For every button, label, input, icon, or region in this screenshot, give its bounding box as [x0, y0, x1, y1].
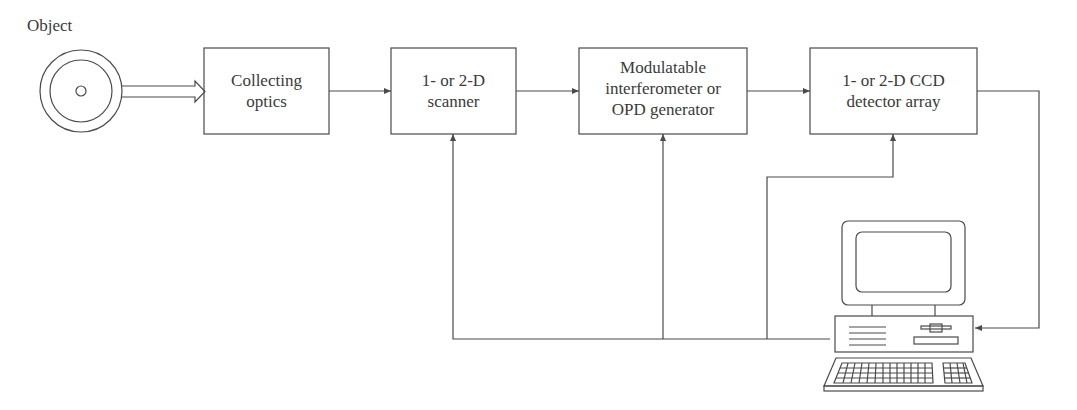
- block-text-line: OPD generator: [579, 99, 747, 120]
- block-text-line: Collecting: [204, 70, 329, 91]
- block-text-line: scanner: [391, 91, 516, 112]
- block-interferometer: Modulatable interferometer or OPD genera…: [579, 57, 747, 120]
- block-text-line: Modulatable: [579, 57, 747, 78]
- block-ccd: 1- or 2-D CCD detector array: [810, 70, 977, 112]
- block-text-line: interferometer or: [579, 78, 747, 99]
- hollow-arrow-icon: [122, 81, 205, 102]
- block-text-line: 1- or 2-D CCD: [810, 70, 977, 91]
- block-scanner: 1- or 2-D scanner: [391, 70, 516, 112]
- object-label: Object: [27, 16, 72, 36]
- block-diagram: [0, 0, 1077, 410]
- block-text-line: detector array: [810, 91, 977, 112]
- object-icon: [40, 50, 122, 132]
- block-text-line: optics: [204, 91, 329, 112]
- block-text-line: 1- or 2-D: [391, 70, 516, 91]
- computer-icon: [824, 221, 983, 391]
- block-collecting-optics: Collecting optics: [204, 70, 329, 112]
